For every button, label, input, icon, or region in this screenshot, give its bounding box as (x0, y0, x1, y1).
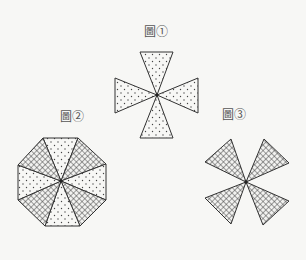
figure-1 (115, 52, 198, 138)
figure-1-triangle-left (115, 78, 157, 113)
figure-1-triangle-bottom (140, 95, 173, 138)
figure-1-center-point (156, 94, 159, 97)
figure-3-triangle-upper-left (205, 139, 246, 182)
figure-1-triangle-right (157, 78, 198, 113)
figure-1-triangle-top (140, 52, 173, 95)
figure-3-label: 圖③ (222, 108, 246, 122)
figure-2-center-point (60, 180, 63, 183)
figure-2-label: 圖② (60, 110, 84, 124)
figure-3-triangle-lower-left (205, 182, 246, 224)
figure-3-center-point (245, 181, 248, 184)
figure-3-triangle-upper-right (246, 139, 289, 182)
diagram-canvas (0, 0, 306, 260)
figure-3-triangle-lower-right (246, 182, 289, 225)
figure-2 (18, 138, 106, 226)
figure-1-label: 圖① (144, 25, 168, 39)
figure-3 (205, 139, 289, 225)
